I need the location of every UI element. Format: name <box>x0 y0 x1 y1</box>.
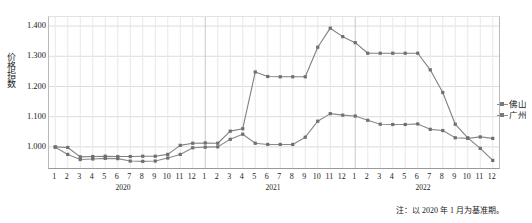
series-point-0 <box>404 52 407 55</box>
series-point-0 <box>266 75 269 78</box>
series-point-0 <box>204 141 207 144</box>
series-point-0 <box>229 130 232 133</box>
series-point-0 <box>329 27 332 30</box>
legend-marker-icon <box>497 100 508 109</box>
x-axis-year-label: 2020 <box>103 183 143 192</box>
y-axis-tick-label: 1.100 <box>2 112 46 121</box>
plot-svg <box>49 17 499 168</box>
series-point-0 <box>479 147 482 150</box>
y-axis-tick-labels: 1.0001.1001.2001.3001.400 <box>0 0 46 180</box>
series-point-1 <box>116 157 119 160</box>
series-point-0 <box>66 146 69 149</box>
series-point-0 <box>491 159 494 162</box>
series-point-0 <box>241 127 244 130</box>
series-point-1 <box>454 136 457 139</box>
y-axis-tick-label: 1.400 <box>2 21 46 30</box>
series-point-0 <box>129 155 132 158</box>
series-line-1 <box>55 114 493 162</box>
series-point-1 <box>329 112 332 115</box>
series-point-0 <box>366 52 369 55</box>
series-point-1 <box>491 137 494 140</box>
series-point-1 <box>166 156 169 159</box>
series-point-1 <box>391 123 394 126</box>
series-point-1 <box>404 123 407 126</box>
series-point-1 <box>179 153 182 156</box>
plot-area <box>48 16 500 169</box>
x-axis-year-label: 2022 <box>403 183 443 192</box>
series-point-1 <box>479 135 482 138</box>
series-point-1 <box>66 153 69 156</box>
series-point-0 <box>304 75 307 78</box>
series-point-0 <box>154 155 157 158</box>
series-point-0 <box>254 70 257 73</box>
y-axis-tick-label: 1.300 <box>2 51 46 60</box>
series-point-1 <box>466 137 469 140</box>
series-point-0 <box>454 123 457 126</box>
series-point-0 <box>141 155 144 158</box>
y-axis-tick-label: 1.000 <box>2 142 46 151</box>
series-point-1 <box>154 159 157 162</box>
series-point-0 <box>191 142 194 145</box>
series-point-1 <box>191 146 194 149</box>
series-point-1 <box>204 146 207 149</box>
series-point-1 <box>54 146 57 149</box>
series-point-1 <box>304 136 307 139</box>
legend-item-label: 佛山 <box>508 99 527 110</box>
series-point-0 <box>441 91 444 94</box>
series-point-1 <box>129 159 132 162</box>
series-point-0 <box>391 52 394 55</box>
legend-item[interactable]: 广州 <box>497 110 527 121</box>
series-point-0 <box>354 41 357 44</box>
series-point-1 <box>379 123 382 126</box>
series-point-1 <box>441 129 444 132</box>
series-point-1 <box>79 158 82 161</box>
legend-item-label: 广州 <box>508 110 527 121</box>
series-point-1 <box>216 145 219 148</box>
series-point-0 <box>291 75 294 78</box>
series-point-1 <box>416 122 419 125</box>
legend: 佛山广州 <box>497 99 527 121</box>
series-point-0 <box>166 153 169 156</box>
series-point-1 <box>91 157 94 160</box>
series-point-0 <box>216 142 219 145</box>
series-line-0 <box>55 28 493 160</box>
x-axis-tick-label: 12 <box>485 172 499 182</box>
series-point-1 <box>316 120 319 123</box>
x-axis-year-labels: 202020212022 <box>48 183 500 195</box>
series-point-1 <box>266 143 269 146</box>
series-point-1 <box>279 143 282 146</box>
series-point-0 <box>341 35 344 38</box>
series-point-0 <box>316 46 319 49</box>
series-point-1 <box>141 160 144 163</box>
legend-item[interactable]: 佛山 <box>497 99 527 110</box>
series-point-1 <box>291 143 294 146</box>
series-point-1 <box>366 119 369 122</box>
series-point-0 <box>429 68 432 71</box>
chart-note: 注：以 2020 年 1 月为基准期。 <box>396 206 504 216</box>
series-point-0 <box>379 52 382 55</box>
series-point-1 <box>429 128 432 131</box>
series-point-1 <box>229 138 232 141</box>
series-point-0 <box>279 75 282 78</box>
series-point-1 <box>354 114 357 117</box>
series-point-0 <box>179 144 182 147</box>
x-axis-year-label: 2021 <box>253 183 293 192</box>
series-point-0 <box>416 52 419 55</box>
series-point-1 <box>341 114 344 117</box>
y-axis-tick-label: 1.200 <box>2 82 46 91</box>
series-point-1 <box>254 142 257 145</box>
series-point-1 <box>104 157 107 160</box>
price-index-line-chart: 价格指数 1.0001.1001.2001.3001.400 123456789… <box>0 0 532 223</box>
legend-marker-icon <box>497 111 508 120</box>
series-point-1 <box>241 133 244 136</box>
